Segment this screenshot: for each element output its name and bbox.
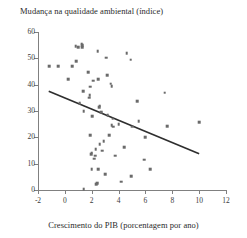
data-point [129, 58, 132, 61]
data-point [94, 154, 97, 157]
data-point [149, 168, 152, 171]
data-point [144, 136, 147, 139]
data-point [101, 149, 104, 152]
data-point [71, 65, 74, 68]
data-point [87, 71, 90, 74]
scatter-plot-figure: Mudança na qualidade ambiental (índice) … [0, 0, 247, 238]
x-tick-mark [92, 190, 93, 194]
trend-line-svg [38, 32, 226, 190]
x-tick-mark [226, 190, 227, 194]
y-tick-label: 20 [28, 132, 36, 141]
data-point [90, 168, 93, 171]
x-tick-label: 12 [222, 196, 230, 205]
data-point [198, 121, 201, 124]
data-point [88, 97, 91, 100]
data-point [104, 173, 107, 176]
data-point [82, 188, 85, 191]
data-point [103, 140, 106, 143]
plot-area [38, 32, 226, 190]
data-point [81, 44, 84, 47]
data-point [114, 154, 117, 157]
y-tick-label: 0 [31, 185, 35, 194]
data-point [75, 60, 78, 63]
data-point [89, 134, 92, 137]
data-point [78, 102, 81, 105]
data-point [90, 151, 93, 154]
x-tick-label: 6 [144, 196, 148, 205]
data-point [105, 56, 108, 59]
data-point [98, 143, 101, 146]
data-point [111, 85, 114, 88]
data-point [106, 74, 109, 77]
y-tick-label: 40 [28, 80, 36, 89]
x-tick-mark [119, 190, 120, 194]
data-point [91, 115, 94, 118]
data-point [100, 111, 103, 114]
data-point [143, 158, 146, 161]
data-point [166, 125, 169, 128]
x-tick-mark [38, 190, 39, 194]
data-point [97, 78, 100, 81]
x-tick-mark [199, 190, 200, 194]
y-tick-label: 10 [28, 159, 36, 168]
data-point [82, 110, 85, 113]
x-tick-mark [172, 190, 173, 194]
x-tick-label: 0 [63, 196, 67, 205]
data-point [92, 79, 95, 82]
data-point [88, 94, 91, 97]
data-point [57, 65, 60, 68]
data-point [164, 91, 167, 94]
y-axis-title: Mudança na qualidade ambiental (índice) [20, 6, 163, 16]
data-point [48, 65, 51, 68]
x-tick-label: 4 [117, 196, 121, 205]
data-point [120, 180, 123, 183]
data-point [96, 50, 99, 53]
data-point [123, 146, 126, 149]
data-point [111, 118, 114, 121]
y-tick-label: 60 [28, 27, 36, 36]
data-point [77, 46, 80, 49]
data-point [131, 126, 134, 129]
data-point [97, 168, 100, 171]
y-tick-label: 30 [28, 106, 36, 115]
data-point [117, 123, 120, 126]
data-point [98, 104, 101, 107]
x-tick-mark [65, 190, 66, 194]
data-point [108, 134, 111, 137]
data-point [125, 52, 128, 55]
data-point [137, 120, 140, 123]
trend-line [49, 91, 199, 153]
data-point [89, 85, 92, 88]
data-point [82, 90, 85, 93]
data-point [112, 126, 115, 129]
y-tick-label: 50 [28, 53, 36, 62]
x-tick-label: 10 [195, 196, 203, 205]
data-point [136, 100, 139, 103]
data-point [96, 182, 99, 185]
x-tick-label: 8 [170, 196, 174, 205]
data-point [67, 78, 70, 81]
x-tick-label: -2 [35, 196, 41, 205]
x-axis-title: Crescimento do PIB (porcentagem por ano) [0, 220, 247, 230]
x-tick-label: 2 [90, 196, 94, 205]
data-point [94, 148, 97, 151]
data-point [130, 175, 133, 178]
data-point [107, 114, 110, 117]
data-point [93, 157, 96, 160]
x-tick-mark [145, 190, 146, 194]
